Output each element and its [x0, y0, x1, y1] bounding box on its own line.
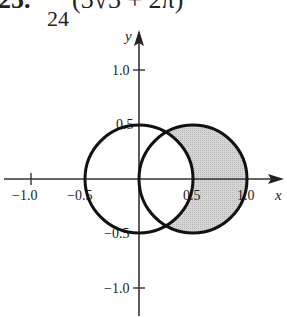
problem-number: 25.: [0, 0, 31, 14]
fraction-denominator: 24: [47, 6, 69, 31]
expression: (3√3 + 2π): [72, 0, 183, 14]
y-axis-label: y: [123, 28, 132, 44]
fraction-numerator: 1: [44, 0, 55, 3]
y-tick-label: −1.0: [104, 281, 129, 296]
header-formula: 25. 1 24 (3√3 + 2π): [0, 0, 183, 31]
y-tick-label: 1.0: [112, 63, 130, 78]
diagram: 25. 1 24 (3√3 + 2π) −1.0 −0.5 0.5 1.0 x …: [0, 0, 287, 317]
x-tick-label: −1.0: [12, 188, 37, 203]
x-axis-label: x: [274, 187, 282, 203]
